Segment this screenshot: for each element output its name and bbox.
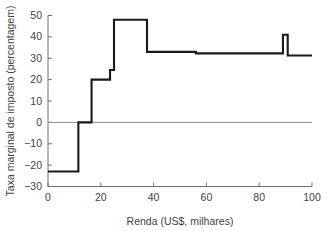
y-tick-label: 20 — [30, 73, 42, 85]
x-axis-title: Renda (US$, milhares) — [127, 215, 234, 227]
tax-rate-chart: −30−20−1001020304050 020406080100 Renda … — [0, 0, 327, 231]
y-tick-label: −10 — [24, 137, 42, 149]
marginal-tax-rate-line — [48, 20, 312, 172]
y-tick-label: −20 — [24, 159, 42, 171]
x-axis-ticks — [48, 183, 312, 187]
y-tick-label: 0 — [36, 116, 42, 128]
y-tick-label: 10 — [30, 95, 42, 107]
y-tick-label: 50 — [30, 9, 42, 21]
x-tick-label: 0 — [45, 191, 51, 203]
chart-canvas: −30−20−1001020304050 020406080100 Renda … — [0, 0, 327, 231]
x-tick-label: 60 — [201, 191, 213, 203]
y-axis-title: Taxa marginal de imposto (percentagem) — [4, 6, 16, 197]
y-axis-ticks — [48, 16, 52, 187]
x-tick-label: 100 — [303, 191, 321, 203]
y-axis-tick-labels: −30−20−1001020304050 — [24, 9, 42, 192]
y-tick-label: −30 — [24, 180, 42, 192]
x-tick-label: 40 — [148, 191, 160, 203]
axes — [48, 16, 312, 187]
x-tick-label: 80 — [253, 191, 265, 203]
x-tick-label: 20 — [95, 191, 107, 203]
step-series — [48, 20, 312, 172]
axis-spines — [48, 16, 312, 187]
x-axis-tick-labels: 020406080100 — [45, 191, 321, 203]
y-tick-label: 40 — [30, 30, 42, 42]
y-tick-label: 30 — [30, 52, 42, 64]
